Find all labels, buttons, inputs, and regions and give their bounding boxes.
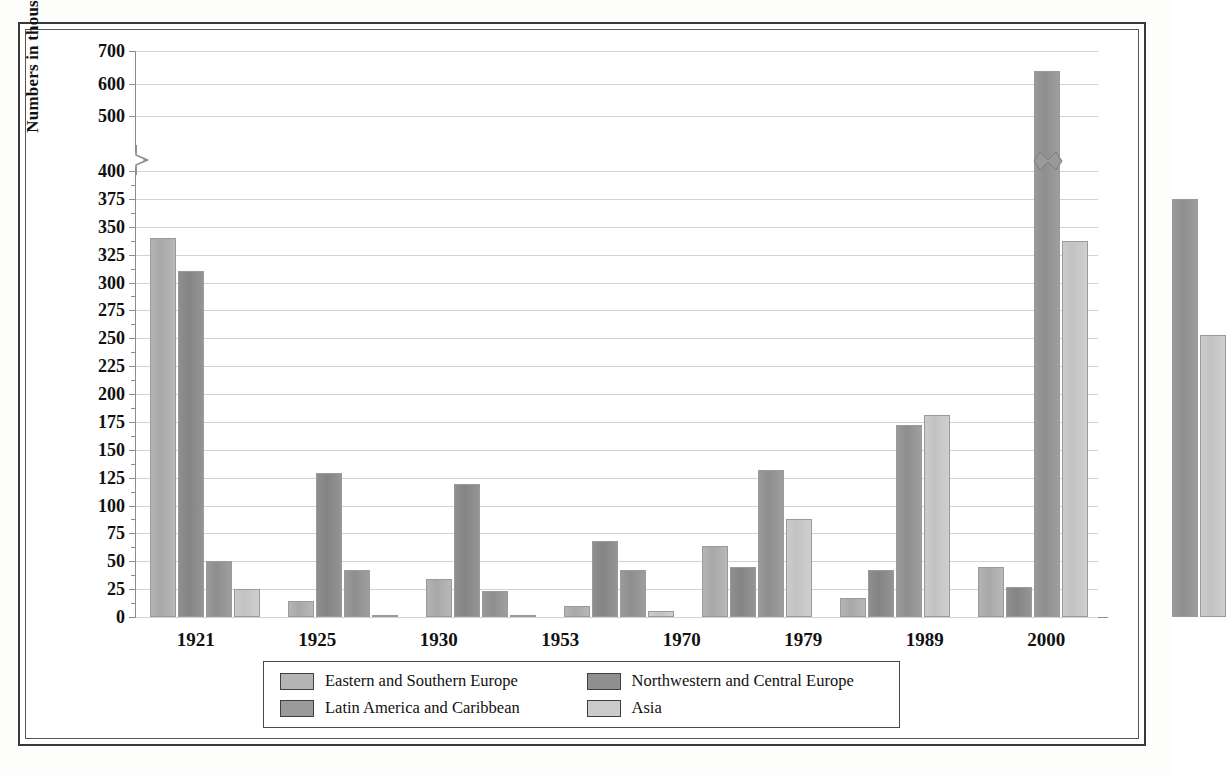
y-axis-tick bbox=[129, 617, 136, 618]
bar bbox=[924, 415, 950, 617]
y-axis-tick-label: 375 bbox=[63, 190, 125, 208]
legend-swatch bbox=[280, 700, 314, 717]
y-axis-tick bbox=[129, 561, 136, 562]
bar bbox=[730, 567, 756, 617]
bar bbox=[178, 271, 204, 617]
bar-group bbox=[826, 51, 964, 617]
bar-groups bbox=[136, 51, 1108, 617]
bar-group bbox=[274, 51, 412, 617]
y-axis-tick-label: 100 bbox=[63, 497, 125, 515]
legend-swatch bbox=[587, 673, 621, 690]
legend-label: Eastern and Southern Europe bbox=[325, 671, 518, 691]
bar bbox=[482, 591, 508, 617]
legend-item[interactable]: Eastern and Southern Europe bbox=[280, 671, 577, 691]
y-axis-tick bbox=[129, 366, 136, 367]
legend-label: Latin America and Caribbean bbox=[325, 698, 520, 718]
y-axis-tick-label: 75 bbox=[63, 524, 125, 542]
y-axis-tick-label: 175 bbox=[63, 413, 125, 431]
bar bbox=[648, 611, 674, 617]
chart-area: Numbers in thousands 0255075100125150175… bbox=[25, 29, 1139, 739]
y-axis-tick bbox=[129, 199, 136, 200]
y-axis-tick-label: 0 bbox=[63, 608, 125, 626]
bar bbox=[454, 484, 480, 617]
legend-swatch bbox=[587, 700, 621, 717]
bar bbox=[1172, 199, 1198, 617]
bar bbox=[620, 570, 646, 617]
y-axis-tick-label: 275 bbox=[63, 301, 125, 319]
bar-break-icon bbox=[1030, 148, 1066, 174]
bar bbox=[426, 579, 452, 617]
y-axis-tick-label: 350 bbox=[63, 218, 125, 236]
bar bbox=[1006, 587, 1032, 617]
bar-group bbox=[136, 51, 274, 617]
y-axis-tick bbox=[129, 450, 136, 451]
bar bbox=[758, 470, 784, 617]
bar-group bbox=[964, 51, 1102, 617]
bar bbox=[344, 570, 370, 617]
legend: Eastern and Southern EuropeNorthwestern … bbox=[263, 661, 900, 728]
y-axis-tick bbox=[129, 255, 136, 256]
bar bbox=[234, 589, 260, 617]
bar bbox=[150, 238, 176, 617]
y-axis-tick bbox=[129, 51, 136, 52]
y-axis-tick bbox=[129, 589, 136, 590]
y-axis-tick-label: 150 bbox=[63, 441, 125, 459]
y-axis-tick bbox=[129, 171, 136, 172]
y-axis-tick bbox=[129, 506, 136, 507]
y-axis-tick bbox=[129, 84, 136, 85]
bar bbox=[592, 541, 618, 617]
y-axis-tick bbox=[129, 283, 136, 284]
x-axis-tick-label: 1953 bbox=[500, 629, 622, 651]
plot-area bbox=[135, 51, 1108, 618]
bar bbox=[702, 546, 728, 617]
y-axis-tick-label: 250 bbox=[63, 329, 125, 347]
legend-item[interactable]: Northwestern and Central Europe bbox=[587, 671, 884, 691]
legend-label: Asia bbox=[632, 698, 662, 718]
bar-group bbox=[412, 51, 550, 617]
bar bbox=[510, 615, 536, 617]
y-axis-tick bbox=[129, 338, 136, 339]
y-axis-tick bbox=[129, 227, 136, 228]
y-axis-tick bbox=[129, 478, 136, 479]
y-axis-tick-label: 500 bbox=[63, 107, 125, 125]
y-axis-tick bbox=[129, 116, 136, 117]
gridline bbox=[136, 617, 1098, 618]
bar bbox=[896, 425, 922, 617]
y-axis-tick bbox=[129, 422, 136, 423]
bar bbox=[1034, 71, 1060, 617]
x-axis-tick-label: 2000 bbox=[986, 629, 1108, 651]
bar bbox=[840, 598, 866, 617]
y-axis-tick-label: 200 bbox=[63, 385, 125, 403]
y-axis-tick-label: 400 bbox=[63, 162, 125, 180]
y-axis-tick bbox=[129, 310, 136, 311]
y-axis-tick-label: 300 bbox=[63, 274, 125, 292]
bar bbox=[564, 606, 590, 617]
legend-item[interactable]: Latin America and Caribbean bbox=[280, 698, 577, 718]
bar bbox=[372, 615, 398, 617]
y-axis-title: Numbers in thousands bbox=[23, 0, 43, 179]
legend-label: Northwestern and Central Europe bbox=[632, 671, 854, 691]
y-axis-tick-label: 125 bbox=[63, 469, 125, 487]
bar bbox=[288, 601, 314, 617]
x-axis-tick-label: 1970 bbox=[621, 629, 743, 651]
bar bbox=[1062, 241, 1088, 617]
legend-swatch bbox=[280, 673, 314, 690]
bar bbox=[978, 567, 1004, 617]
y-axis-tick bbox=[129, 533, 136, 534]
x-axis-tick-label: 1930 bbox=[378, 629, 500, 651]
x-axis-tick-label: 1979 bbox=[743, 629, 865, 651]
bar bbox=[206, 561, 232, 617]
x-axis-tick-label: 1989 bbox=[864, 629, 986, 651]
y-axis-tick-label: 225 bbox=[63, 357, 125, 375]
x-axis-tick-labels: 19211925193019531970197919892000 bbox=[135, 629, 1107, 651]
bar-group bbox=[550, 51, 688, 617]
bar bbox=[786, 519, 812, 617]
x-axis-tick-label: 1921 bbox=[135, 629, 257, 651]
y-axis-tick-label: 600 bbox=[63, 75, 125, 93]
x-axis-tick-label: 1925 bbox=[257, 629, 379, 651]
y-axis-tick-label: 700 bbox=[63, 42, 125, 60]
bar bbox=[1200, 335, 1226, 617]
legend-item[interactable]: Asia bbox=[587, 698, 884, 718]
bar-group bbox=[688, 51, 826, 617]
